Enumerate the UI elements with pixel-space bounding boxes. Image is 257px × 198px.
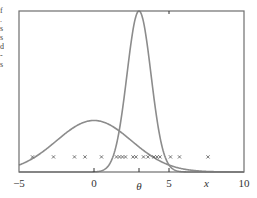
x-marker [158, 155, 161, 158]
x-marker [100, 155, 103, 158]
x-marker [146, 155, 149, 158]
x-marker [121, 155, 124, 158]
sample-markers [31, 155, 210, 158]
x-marker [118, 155, 121, 158]
x-marker [131, 155, 134, 158]
x-marker [155, 155, 158, 158]
x-axis-tick-labels: −50θ5x10 [13, 177, 250, 192]
x-tick-label: −5 [13, 177, 25, 189]
x-tick-label: 5 [166, 177, 172, 189]
x-marker [73, 155, 76, 158]
x-tick-label: θ [136, 180, 142, 192]
x-tick-label: 0 [91, 177, 97, 189]
x-marker [124, 155, 127, 158]
x-marker [206, 155, 209, 158]
x-marker [83, 155, 86, 158]
curve-narrow [19, 11, 244, 172]
density-curves [19, 11, 244, 172]
x-tick-label: 10 [239, 177, 251, 189]
x-marker [142, 155, 145, 158]
x-tick-label: x [203, 177, 209, 189]
curve-broad [19, 120, 244, 171]
x-marker [52, 155, 55, 158]
x-marker [178, 155, 181, 158]
x-marker [134, 155, 137, 158]
chart: −50θ5x10 [0, 0, 257, 198]
x-marker [115, 155, 118, 158]
x-marker [169, 155, 172, 158]
